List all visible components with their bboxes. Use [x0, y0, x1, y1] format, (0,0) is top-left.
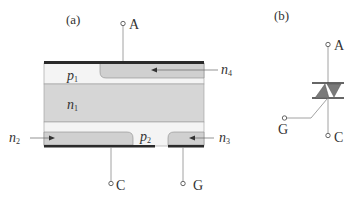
symbol-gate-terminal-icon [282, 116, 286, 120]
n4-label: n4 [221, 62, 232, 78]
gate-metal [168, 145, 204, 148]
symbol-anode-label: A [334, 38, 345, 53]
cathode-metal [44, 145, 155, 148]
anode-metal [44, 61, 204, 64]
symbol-cathode-terminal-icon [326, 133, 330, 137]
n3-region [168, 132, 204, 145]
panel-b-label: (b) [274, 8, 289, 23]
triac-diagram: (a) p1 n1 p2 n4 n2 n3 A C [0, 0, 360, 204]
triac-symbol: A C G [278, 38, 345, 145]
n2-region [44, 132, 133, 145]
gate-label: G [193, 178, 203, 193]
panel-a-label: (a) [66, 12, 80, 27]
anode-label: A [129, 17, 140, 32]
cathode-terminal-icon [109, 181, 113, 185]
anode-terminal-icon [121, 21, 125, 25]
symbol-anode-terminal-icon [326, 42, 330, 46]
cathode-label: C [116, 178, 125, 193]
symbol-gate-label: G [278, 122, 288, 137]
symbol-cathode-label: C [334, 130, 343, 145]
symbol-forward-diode-icon [315, 84, 329, 98]
n2-label: n2 [9, 130, 20, 146]
n4-region [100, 63, 204, 78]
gate-terminal-icon [181, 181, 185, 185]
n3-label: n3 [219, 130, 230, 146]
symbol-reverse-diode-icon [327, 84, 341, 97]
symbol-gate-lead [287, 99, 327, 118]
